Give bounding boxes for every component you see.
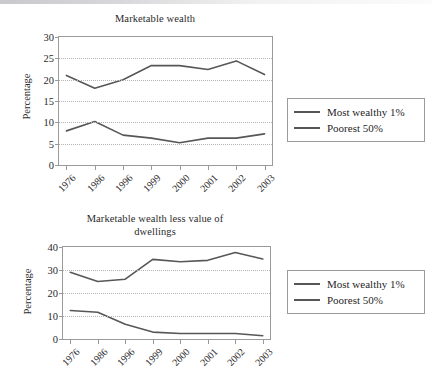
x-axis-tick-label: 2003 — [253, 346, 275, 368]
y-axis-tick-label: 0 — [53, 334, 58, 345]
figure-marketable-wealth: Marketable wealth Percentage 05101520253… — [0, 6, 432, 196]
x-axis-tick-label: 2001 — [198, 172, 220, 194]
legend: Most wealthy 1% Poorest 50% — [287, 98, 425, 142]
y-axis-tick-label: 30 — [44, 32, 55, 43]
gridline — [63, 316, 270, 317]
legend-line-swatch-icon — [294, 111, 320, 113]
x-axis-tick-label: 1986 — [85, 172, 107, 194]
y-axis-tick-mark — [55, 122, 59, 123]
x-axis-tick-mark — [208, 165, 209, 170]
y-axis-tick-mark — [59, 270, 63, 271]
series-line — [70, 253, 263, 282]
y-axis-tick-mark — [55, 37, 59, 38]
x-axis-tick-mark — [208, 339, 209, 344]
legend-label: Most wealthy 1% — [327, 278, 405, 290]
legend-item-poorest[interactable]: Poorest 50% — [294, 120, 417, 136]
y-axis-tick-mark — [55, 101, 59, 102]
gridline — [59, 58, 272, 59]
legend-item-most-wealthy[interactable]: Most wealthy 1% — [294, 276, 417, 292]
legend-label: Poorest 50% — [327, 122, 383, 134]
chart-title: Marketable wealth less value of dwelling… — [30, 212, 280, 238]
y-axis-tick-label: 40 — [48, 242, 59, 253]
y-axis-tick-label: 10 — [48, 311, 59, 322]
legend-line-swatch-icon — [294, 299, 320, 301]
legend-item-poorest[interactable]: Poorest 50% — [294, 292, 417, 308]
legend: Most wealthy 1% Poorest 50% — [287, 270, 425, 314]
y-axis-tick-label: 10 — [44, 117, 55, 128]
y-axis-tick-label: 5 — [49, 138, 54, 149]
series-line — [66, 61, 264, 88]
x-axis-tick-mark — [98, 339, 99, 344]
x-axis-tick-label: 2000 — [170, 346, 192, 368]
legend-item-most-wealthy[interactable]: Most wealthy 1% — [294, 104, 417, 120]
gridline — [63, 270, 270, 271]
x-axis-tick-label: 2003 — [254, 172, 276, 194]
legend-label: Most wealthy 1% — [327, 106, 405, 118]
y-axis-tick-mark — [59, 247, 63, 248]
x-axis-tick-label: 1996 — [115, 346, 137, 368]
x-axis-tick-mark — [95, 165, 96, 170]
chart-title-line: dwellings — [30, 225, 280, 238]
legend-label: Poorest 50% — [327, 294, 383, 306]
series-line — [66, 121, 264, 142]
x-axis-tick-label: 1986 — [88, 346, 110, 368]
x-axis-tick-mark — [125, 339, 126, 344]
plot-area: 0510152025301976198619961999200020012002… — [58, 36, 273, 166]
legend-line-swatch-icon — [294, 283, 320, 285]
chart-title-line: Marketable wealth — [30, 12, 280, 25]
x-axis-tick-mark — [263, 339, 264, 344]
y-axis-tick-label: 20 — [44, 74, 55, 85]
gridline — [59, 80, 272, 81]
y-axis-tick-label: 15 — [44, 96, 55, 107]
x-axis-tick-label: 1996 — [113, 172, 135, 194]
y-axis-tick-label: 0 — [49, 160, 54, 171]
x-axis-tick-mark — [180, 165, 181, 170]
y-axis-tick-label: 25 — [44, 53, 55, 64]
x-axis-tick-label: 2001 — [198, 346, 220, 368]
y-axis-label: Percentage — [22, 257, 33, 327]
x-axis-tick-label: 2002 — [225, 346, 247, 368]
y-axis-tick-label: 20 — [48, 288, 59, 299]
page-top-edge-strip — [0, 0, 432, 4]
chart-title: Marketable wealth — [30, 12, 280, 25]
x-axis-tick-mark — [66, 165, 67, 170]
x-axis-tick-mark — [70, 339, 71, 344]
plot-area: 0102030401976198619961999200020012002200… — [62, 246, 271, 340]
x-axis-tick-label: 2002 — [226, 172, 248, 194]
y-axis-tick-mark — [59, 293, 63, 294]
x-axis-tick-label: 1976 — [60, 346, 82, 368]
x-axis-tick-mark — [236, 165, 237, 170]
x-axis-tick-mark — [123, 165, 124, 170]
figure-page: Marketable wealth Percentage 05101520253… — [0, 0, 432, 378]
legend-line-swatch-icon — [294, 127, 320, 129]
y-axis-tick-mark — [55, 165, 59, 166]
y-axis-tick-mark — [55, 144, 59, 145]
x-axis-tick-mark — [265, 165, 266, 170]
series-line — [70, 310, 263, 335]
chart-title-line: Marketable wealth less value of — [30, 212, 280, 225]
gridline — [63, 293, 270, 294]
x-axis-tick-mark — [151, 165, 152, 170]
y-axis-tick-mark — [55, 80, 59, 81]
x-axis-tick-label: 1999 — [143, 346, 165, 368]
gridline — [59, 144, 272, 145]
y-axis-tick-mark — [55, 58, 59, 59]
gridline — [59, 122, 272, 123]
x-axis-tick-label: 2000 — [169, 172, 191, 194]
figure-marketable-wealth-less-dwellings: Marketable wealth less value of dwelling… — [0, 208, 432, 378]
x-axis-tick-mark — [153, 339, 154, 344]
y-axis-tick-mark — [59, 316, 63, 317]
x-axis-tick-label: 1999 — [141, 172, 163, 194]
x-axis-tick-mark — [235, 339, 236, 344]
gridline — [59, 101, 272, 102]
y-axis-tick-label: 30 — [48, 265, 59, 276]
x-axis-tick-label: 1976 — [56, 172, 78, 194]
y-axis-label: Percentage — [21, 57, 32, 137]
y-axis-tick-mark — [59, 339, 63, 340]
x-axis-tick-mark — [180, 339, 181, 344]
